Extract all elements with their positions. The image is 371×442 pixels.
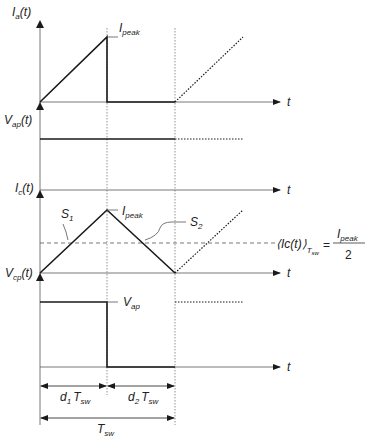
average-equals: = — [323, 238, 330, 252]
d2-tsw-label: d2Tsw — [128, 390, 159, 406]
ic-arrow-icon — [36, 190, 44, 198]
average-lhs: ⟨Ic(t)⟩Tsw — [276, 237, 320, 256]
guide-lines — [107, 28, 175, 425]
panel-ia: Ia(t) Ipeak t — [12, 5, 291, 109]
ic-next-cycle — [175, 210, 243, 273]
ia-next-cycle — [175, 37, 243, 102]
ia-y-label: Ia(t) — [12, 5, 31, 21]
vap-arrow-icon — [36, 102, 44, 110]
vcp-y-label: Vcp(t) — [5, 266, 33, 282]
ic-upper-t-label: t — [287, 183, 291, 197]
vap-level-label: Vap — [123, 295, 140, 311]
s1-label: S1 — [61, 207, 73, 223]
average-formula: ⟨Ic(t)⟩Tsw = Ipeak 2 — [276, 227, 365, 262]
average-numerator: Ipeak — [337, 227, 359, 243]
vcp-waveform — [40, 302, 175, 367]
ia-t-label: t — [287, 95, 291, 109]
d1-tsw-label: d1Tsw — [60, 390, 91, 406]
ic-y-label: Ic(t) — [15, 181, 34, 197]
average-denominator: 2 — [345, 248, 352, 262]
ic-peak-label: Ipeak — [122, 204, 144, 220]
ic-t-label: t — [287, 266, 291, 280]
panel-vcp: t Vcp(t) Vap — [5, 266, 291, 374]
panel-ic: t t Ic(t) Ipeak S1 S2 ⟨Ic(t)⟩Tsw = Ipeak… — [15, 181, 365, 280]
ia-arrow-icon — [36, 20, 44, 28]
vcp-t-label: t — [287, 360, 291, 374]
s2-label: S2 — [190, 215, 203, 231]
vap-y-label: Vap(t) — [4, 113, 32, 129]
tsw-label: Tsw — [97, 422, 115, 438]
ia-peak-label: Ipeak — [119, 21, 141, 37]
ia-waveform — [40, 37, 175, 102]
vcp-arrow-icon — [36, 273, 44, 281]
waveform-diagram: Ia(t) Ipeak t Vap(t) t t Ic(t) Ipeak S1 … — [0, 0, 371, 442]
